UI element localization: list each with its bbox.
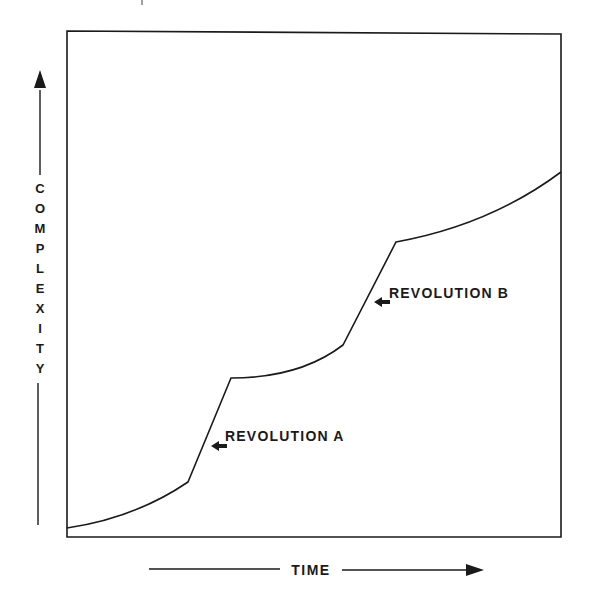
svg-text:C: C bbox=[35, 181, 45, 196]
arrow-right-icon bbox=[466, 564, 484, 576]
complexity-diagram: C O M P L E X I T Y TIME REVOLUTION A RE… bbox=[0, 0, 590, 605]
svg-text:X: X bbox=[36, 301, 45, 316]
revolution-a-annotation: REVOLUTION A bbox=[211, 428, 345, 451]
svg-text:Y: Y bbox=[36, 361, 45, 376]
arrow-left-icon bbox=[374, 297, 390, 307]
complexity-curve bbox=[67, 172, 561, 528]
arrow-up-icon bbox=[34, 70, 46, 88]
plot-frame bbox=[67, 31, 561, 537]
svg-text:T: T bbox=[36, 341, 44, 356]
x-axis-label: TIME bbox=[291, 562, 330, 578]
revolution-b-annotation: REVOLUTION B bbox=[374, 285, 509, 307]
y-axis-arrow bbox=[34, 70, 46, 525]
svg-text:I: I bbox=[38, 321, 42, 336]
svg-text:L: L bbox=[36, 261, 44, 276]
svg-text:P: P bbox=[36, 241, 45, 256]
svg-text:M: M bbox=[35, 221, 46, 236]
revolution-a-label: REVOLUTION A bbox=[225, 428, 345, 444]
svg-text:E: E bbox=[36, 281, 45, 296]
revolution-b-label: REVOLUTION B bbox=[389, 285, 509, 301]
svg-text:O: O bbox=[35, 201, 45, 216]
y-axis-label: C O M P L E X I T Y bbox=[35, 181, 46, 376]
